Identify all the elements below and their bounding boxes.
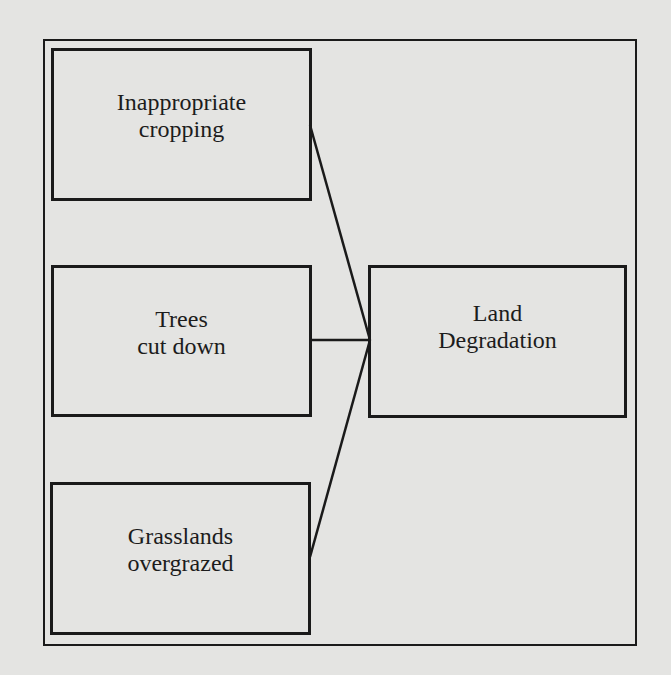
label-line: overgrazed: [127, 550, 233, 577]
cause-box-grasslands-overgrazed: Grasslands overgrazed: [50, 482, 311, 635]
cause-label: Grasslands overgrazed: [127, 523, 233, 577]
effect-label: Land Degradation: [438, 300, 557, 354]
connector-cause-1: [310, 125, 370, 340]
label-line: Trees: [137, 306, 226, 333]
label-line: cropping: [117, 116, 246, 143]
cause-box-trees-cut-down: Trees cut down: [51, 265, 312, 417]
effect-box-land-degradation: Land Degradation: [368, 265, 627, 418]
label-line: cut down: [137, 333, 226, 360]
cause-label: Inappropriate cropping: [117, 89, 246, 143]
label-line: Grasslands: [127, 523, 233, 550]
label-line: Land: [438, 300, 557, 327]
cause-box-inappropriate-cropping: Inappropriate cropping: [51, 48, 312, 201]
cause-label: Trees cut down: [137, 306, 226, 360]
label-line: Inappropriate: [117, 89, 246, 116]
connector-cause-3: [310, 340, 370, 557]
label-line: Degradation: [438, 327, 557, 354]
